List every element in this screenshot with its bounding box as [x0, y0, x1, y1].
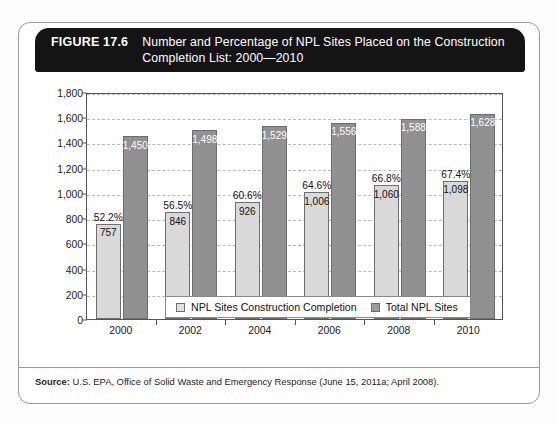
y-axis-tick-label: 800 [37, 214, 83, 225]
bar-value-label: 1,556 [331, 126, 356, 137]
bar-value-label: 1,628 [470, 117, 495, 128]
x-axis-tick-label: 2010 [457, 325, 480, 336]
bar-value-label: 757 [100, 227, 117, 238]
bar-2008-series2 [401, 119, 426, 319]
bar-2002-series2 [192, 130, 217, 319]
y-axis-tick-label: 400 [37, 264, 83, 275]
x-axis-tick-mark [225, 320, 226, 325]
chart-legend: NPL Sites Construction CompletionTotal N… [165, 296, 471, 318]
figure-frame: FIGURE 17.6 Number and Percentage of NPL… [18, 22, 540, 404]
bar-2006-series2 [331, 123, 356, 319]
gridline [87, 245, 502, 246]
figure-number-label: FIGURE 17.6 [51, 34, 128, 51]
gridline [87, 144, 502, 145]
legend-swatch-dark [371, 303, 380, 312]
y-axis-tick-label: 1,000 [37, 188, 83, 199]
bar-value-label: 926 [239, 206, 256, 217]
y-axis-tick-label: 1,600 [37, 113, 83, 124]
bar-value-label: 1,588 [401, 122, 426, 133]
bar-percent-label: 66.8% [372, 173, 401, 184]
figure-header-banner: FIGURE 17.6 Number and Percentage of NPL… [35, 28, 525, 72]
y-axis-tick-label: 600 [37, 239, 83, 250]
y-axis-tick-label: 1,800 [37, 88, 83, 99]
gridline [87, 94, 502, 95]
y-axis-tick-label: 1,200 [37, 163, 83, 174]
bar-2000-series2 [123, 136, 148, 319]
legend-label: Total NPL Sites [386, 301, 458, 313]
legend-entry-2: Total NPL Sites [371, 301, 458, 313]
source-divider [19, 367, 539, 368]
bar-value-label: 1,529 [262, 130, 287, 141]
x-axis-tick-label: 2008 [387, 325, 410, 336]
x-axis-tick-mark [156, 320, 157, 325]
y-axis-tick-label: 200 [37, 289, 83, 300]
bar-value-label: 1,450 [123, 140, 148, 151]
x-axis-tick-label: 2006 [318, 325, 341, 336]
figure-title-line-1: Number and Percentage of NPL Sites Place… [142, 35, 504, 49]
y-axis: 02004006008001,0001,2001,4001,6001,800 [31, 93, 83, 320]
gridline [87, 170, 502, 171]
bar-value-label: 1,098 [443, 184, 468, 195]
bar-percent-label: 67.4% [441, 169, 470, 180]
legend-swatch-light [176, 303, 185, 312]
x-axis-tick-mark [364, 320, 365, 325]
source-note: Source: U.S. EPA, Office of Solid Waste … [35, 376, 439, 387]
figure-title: Number and Percentage of NPL Sites Place… [142, 34, 504, 66]
legend-label: NPL Sites Construction Completion [191, 301, 357, 313]
bar-value-label: 1,006 [304, 196, 329, 207]
x-axis-tick-label: 2004 [248, 325, 271, 336]
bar-percent-label: 56.5% [163, 200, 192, 211]
bar-percent-label: 52.2% [94, 212, 123, 223]
plot-area: 75752.2%1,45084656.5%1,49892660.6%1,5291… [86, 93, 503, 320]
bar-percent-label: 64.6% [302, 180, 331, 191]
source-text: U.S. EPA, Office of Solid Waste and Emer… [70, 376, 439, 387]
gridline [87, 220, 502, 221]
legend-entry-1: NPL Sites Construction Completion [176, 301, 357, 313]
gridline [87, 195, 502, 196]
x-axis-tick-mark [295, 320, 296, 325]
figure-title-line-2: Completion List: 2000—2010 [142, 50, 504, 66]
bar-percent-label: 60.6% [233, 190, 262, 201]
gridline [87, 271, 502, 272]
y-axis-tick-label: 0 [37, 315, 83, 326]
source-label: Source: [35, 376, 70, 387]
bar-value-label: 1,060 [374, 189, 399, 200]
x-axis-tick-label: 2002 [179, 325, 202, 336]
x-axis-tick-mark [434, 320, 435, 325]
bar-value-label: 1,498 [192, 134, 217, 145]
bar-value-label: 846 [169, 216, 186, 227]
x-axis-tick-label: 2000 [109, 325, 132, 336]
bar-2004-series2 [262, 126, 287, 319]
gridline [87, 119, 502, 120]
bar-2010-series2 [470, 114, 495, 319]
y-axis-tick-label: 1,400 [37, 138, 83, 149]
